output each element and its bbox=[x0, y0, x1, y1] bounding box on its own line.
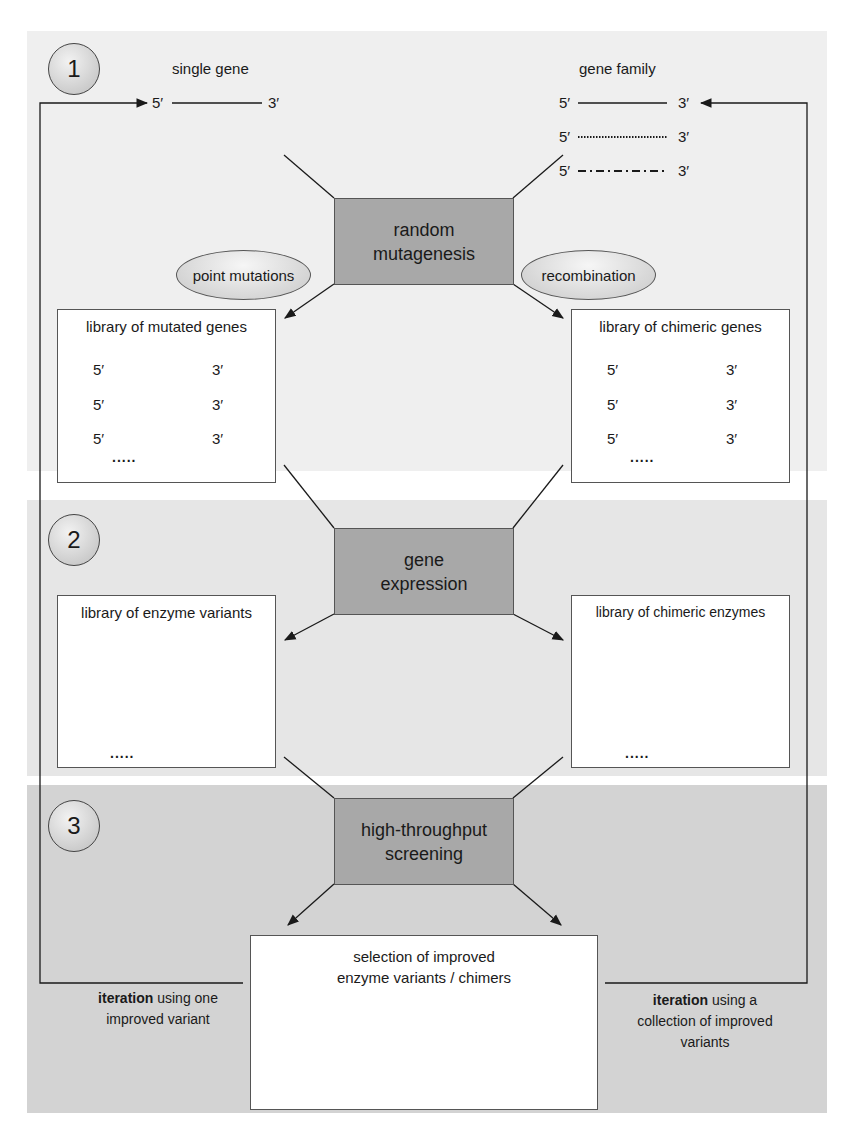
gene-family-3prime: 3′ bbox=[678, 128, 689, 145]
gene-5prime: 5′ bbox=[607, 361, 618, 378]
gene-3prime: 3′ bbox=[212, 430, 223, 447]
process-line: high-throughput bbox=[361, 818, 487, 842]
library-chimeric-genes-box: library of chimeric genes bbox=[571, 309, 790, 483]
gene-family-5prime: 5′ bbox=[559, 162, 570, 179]
process-line: mutagenesis bbox=[373, 242, 475, 266]
step-number: 2 bbox=[67, 526, 80, 554]
selection-title-line1: selection of improved bbox=[251, 948, 597, 965]
more-ellipsis: ..... bbox=[630, 449, 654, 465]
step-1-badge: 1 bbox=[48, 43, 100, 95]
gene-family-5prime: 5′ bbox=[559, 94, 570, 111]
more-ellipsis: ..... bbox=[112, 449, 136, 465]
process-high-throughput-screening: high-throughput screening bbox=[334, 798, 514, 885]
step-number: 3 bbox=[67, 812, 80, 840]
recombination-ellipse: recombination bbox=[521, 250, 656, 300]
method-label: recombination bbox=[541, 267, 635, 284]
iteration-left-label: iteration using one improved variant bbox=[58, 988, 258, 1030]
iteration-bold: iteration bbox=[98, 990, 153, 1006]
method-label: point mutations bbox=[193, 267, 295, 284]
library-mutated-genes-box: library of mutated genes bbox=[57, 309, 276, 483]
arrow-to-selection-right bbox=[513, 884, 561, 925]
gene-family-3prime: 3′ bbox=[678, 162, 689, 179]
gene-3prime: 3′ bbox=[726, 430, 737, 447]
step-number: 1 bbox=[67, 55, 80, 83]
library-enzyme-variants-box: library of enzyme variants bbox=[57, 595, 276, 768]
iteration-text: variants bbox=[680, 1034, 729, 1050]
library-title: library of enzyme variants bbox=[58, 604, 275, 621]
process-line: random bbox=[393, 218, 454, 242]
process-line: expression bbox=[380, 572, 467, 596]
step-2-badge: 2 bbox=[48, 514, 100, 566]
single-gene-5prime: 5′ bbox=[152, 94, 163, 111]
gene-family-5prime: 5′ bbox=[559, 128, 570, 145]
gene-5prime: 5′ bbox=[607, 430, 618, 447]
gene-5prime: 5′ bbox=[93, 361, 104, 378]
selection-title-line2: enzyme variants / chimers bbox=[251, 969, 597, 986]
step-3-badge: 3 bbox=[48, 800, 100, 852]
iteration-text: using one bbox=[153, 990, 218, 1006]
gene-5prime: 5′ bbox=[93, 396, 104, 413]
process-line: screening bbox=[385, 842, 463, 866]
library-title: library of chimeric genes bbox=[572, 318, 789, 335]
iteration-text: using a bbox=[708, 992, 757, 1008]
more-ellipsis: ..... bbox=[625, 745, 649, 761]
gene-3prime: 3′ bbox=[212, 361, 223, 378]
process-random-mutagenesis: random mutagenesis bbox=[334, 198, 514, 285]
single-gene-title: single gene bbox=[172, 60, 249, 77]
gene-family-title: gene family bbox=[579, 60, 656, 77]
point-mutations-ellipse: point mutations bbox=[176, 250, 311, 300]
arrow-to-selection-left bbox=[288, 884, 334, 925]
more-ellipsis: ..... bbox=[110, 745, 134, 761]
gene-5prime: 5′ bbox=[93, 430, 104, 447]
iteration-right-label: iteration using a collection of improved… bbox=[600, 990, 810, 1053]
single-gene-3prime: 3′ bbox=[268, 94, 279, 111]
library-title: library of mutated genes bbox=[58, 318, 275, 335]
iteration-bold: iteration bbox=[653, 992, 708, 1008]
library-chimeric-enzymes-box: library of chimeric enzymes bbox=[571, 595, 790, 768]
arrow-to-chimeric-enzymes bbox=[513, 614, 563, 640]
process-gene-expression: gene expression bbox=[334, 528, 514, 615]
iteration-text: collection of improved bbox=[637, 1013, 772, 1029]
iteration-text: improved variant bbox=[106, 1011, 210, 1027]
process-line: gene bbox=[404, 548, 444, 572]
gene-family-3prime: 3′ bbox=[678, 94, 689, 111]
gene-5prime: 5′ bbox=[607, 396, 618, 413]
library-title: library of chimeric enzymes bbox=[572, 604, 789, 620]
iteration-loop-right-arrow bbox=[605, 103, 807, 983]
selection-box: selection of improved enzyme variants / … bbox=[250, 935, 598, 1110]
gene-3prime: 3′ bbox=[212, 396, 223, 413]
gene-3prime: 3′ bbox=[726, 396, 737, 413]
gene-3prime: 3′ bbox=[726, 361, 737, 378]
arrow-to-enzyme-variants bbox=[285, 614, 334, 640]
